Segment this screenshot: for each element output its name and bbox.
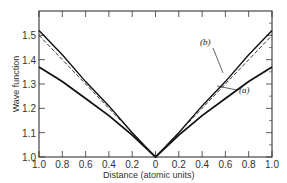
plot-frame bbox=[39, 11, 272, 157]
y-tick-label: 1.3 bbox=[22, 79, 36, 90]
x-tick-label: 0.4 bbox=[195, 159, 209, 170]
y-tick-label: 1.2 bbox=[22, 103, 36, 114]
x-tick-label: 0.4 bbox=[102, 159, 116, 170]
annotation-a: (a) bbox=[239, 85, 250, 95]
series-a bbox=[39, 67, 272, 157]
plot-border bbox=[39, 11, 272, 157]
y-tick-label: 1.0 bbox=[22, 152, 36, 163]
series-b bbox=[39, 31, 272, 158]
x-tick-label: 0 bbox=[153, 159, 159, 170]
x-tick-label: 0.8 bbox=[55, 159, 69, 170]
y-axis-title: Wave function bbox=[11, 56, 21, 113]
x-tick-label: 0.8 bbox=[242, 159, 256, 170]
x-tick-label: 0.6 bbox=[218, 159, 232, 170]
y-tick-label: 1.4 bbox=[22, 55, 36, 66]
x-tick-label: 0.2 bbox=[125, 159, 139, 170]
annotation-b: (b) bbox=[200, 37, 211, 47]
series-layer bbox=[39, 31, 272, 158]
y-tick-label: 1.1 bbox=[22, 128, 36, 139]
y-tick-label: 1.5 bbox=[22, 30, 36, 41]
x-axis-title: Distance (atomic units) bbox=[103, 170, 195, 180]
x-tick-label: 1.0 bbox=[265, 159, 279, 170]
wave-function-chart: 1.00.80.60.40.200.20.40.60.81.0 1.01.11.… bbox=[0, 0, 287, 183]
annotation-b-arrow bbox=[213, 48, 223, 73]
y-axis-ticks: 1.01.11.21.31.41.5 bbox=[22, 23, 272, 163]
series-exact bbox=[39, 35, 272, 157]
x-tick-label: 0.6 bbox=[79, 159, 93, 170]
x-tick-label: 0.2 bbox=[172, 159, 186, 170]
